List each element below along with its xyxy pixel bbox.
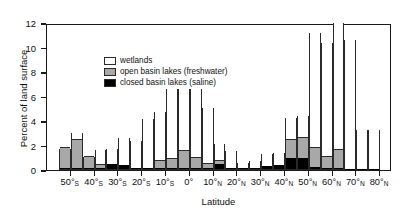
legend-swatch-closed — [104, 79, 116, 87]
bar-segment-wetlands — [155, 111, 165, 161]
bar-segment-closed-basin-lakes — [119, 165, 129, 169]
x-axis-tick-mark — [355, 171, 356, 176]
y-axis-tick-label: 10 — [6, 43, 36, 54]
stacked-bar — [106, 149, 118, 170]
stacked-bar — [142, 119, 154, 170]
bar-segment-wetlands — [226, 150, 236, 168]
bar-segment-wetlands — [119, 137, 129, 165]
bar-segment-open-basin-lakes — [60, 148, 70, 168]
bar-segment-wetlands — [262, 153, 272, 166]
stacked-bar — [333, 23, 345, 170]
bar-segment-wetlands — [345, 39, 355, 169]
bar-segment-wetlands — [96, 149, 106, 165]
legend-swatch-wetlands — [104, 57, 116, 65]
x-axis-tick-mark — [117, 171, 118, 176]
bar-segment-closed-basin-lakes — [60, 168, 70, 169]
bar-segment-wetlands — [131, 140, 141, 168]
stacked-bar — [83, 157, 95, 170]
stacked-bar — [321, 43, 333, 170]
stacked-bar — [214, 144, 226, 170]
bar-segment-open-basin-lakes — [167, 159, 177, 169]
bar-segment-closed-basin-lakes — [143, 168, 153, 169]
stacked-bar — [59, 149, 71, 170]
stacked-bar — [273, 153, 285, 170]
bar-segment-closed-basin-lakes — [96, 168, 106, 169]
x-axis-tick-label: 40°S — [84, 177, 102, 187]
bar-segment-divider — [96, 164, 106, 165]
legend-label: open basin lakes (freshwater) — [120, 67, 227, 77]
bar-segment-closed-basin-lakes — [203, 168, 213, 169]
stacked-bar — [118, 138, 130, 170]
bar-segment-divider — [334, 149, 344, 150]
bar-segment-closed-basin-lakes — [250, 168, 260, 169]
stacked-bar — [130, 141, 142, 170]
x-axis-tick-label: 70°N — [346, 177, 365, 187]
stacked-bar — [368, 130, 380, 170]
x-axis-tick-label: 10°S — [156, 177, 174, 187]
bar-segment-divider — [179, 150, 189, 151]
stacked-bar — [297, 116, 309, 170]
stacked-bar — [71, 133, 83, 170]
x-axis-tick-label: 80°N — [370, 177, 389, 187]
x-axis-tick-mark — [236, 171, 237, 176]
x-axis-label: Latitude — [46, 196, 391, 207]
x-axis-tick-mark — [189, 171, 190, 176]
x-axis-tick-label: 20°S — [132, 177, 150, 187]
bar-segment-divider — [322, 156, 332, 157]
bar-segment-closed-basin-lakes — [322, 168, 332, 169]
bar-segment-open-basin-lakes — [72, 140, 82, 168]
stacked-bar — [237, 163, 249, 170]
x-axis-tick-mark — [332, 171, 333, 176]
bar-segment-closed-basin-lakes — [274, 165, 284, 169]
bar-segment-divider — [298, 137, 308, 138]
bar-segment-wetlands — [310, 32, 320, 148]
legend-label: wetlands — [120, 56, 152, 66]
bar-segment-wetlands — [215, 143, 225, 161]
x-axis-tick-label: 50°S — [61, 177, 79, 187]
bar-segment-closed-basin-lakes — [179, 168, 189, 169]
bar-segment-divider — [203, 163, 213, 164]
stacked-bar — [154, 112, 166, 170]
bar-segment-wetlands — [298, 115, 308, 138]
x-axis-tick-label: 30°S — [108, 177, 126, 187]
bar-segment-closed-basin-lakes — [226, 168, 236, 169]
stacked-bar — [261, 154, 273, 170]
bar-segment-closed-basin-lakes — [131, 168, 141, 169]
bar-segment-open-basin-lakes — [334, 150, 344, 168]
bar-segment-divider — [84, 156, 94, 157]
bar-segment-open-basin-lakes — [298, 138, 308, 158]
bar-segment-closed-basin-lakes — [286, 158, 296, 169]
x-axis-tick-label: 10°N — [203, 177, 222, 187]
bar-segment-closed-basin-lakes — [72, 168, 82, 169]
x-axis-tick-mark — [260, 171, 261, 176]
x-axis-tick-label: 20°N — [227, 177, 246, 187]
x-axis-tick-mark — [94, 171, 95, 176]
bar-segment-closed-basin-lakes — [167, 168, 177, 169]
x-axis-tick-label: 40°N — [275, 177, 294, 187]
bar-segment-open-basin-lakes — [286, 139, 296, 158]
chart-figure: Percent of land surface 024681012 wetlan… — [0, 0, 415, 217]
bar-segment-closed-basin-lakes — [107, 164, 117, 169]
bar-segment-divider — [215, 160, 225, 161]
bar-segment-divider — [286, 139, 296, 140]
x-axis-tick-label: 50°N — [298, 177, 317, 187]
legend-entry: closed basin lakes (saline) — [104, 77, 227, 88]
bar-segment-divider — [191, 157, 201, 158]
bar-segment-open-basin-lakes — [310, 148, 320, 167]
x-axis-tick-label: 0° — [184, 177, 193, 187]
x-axis-tick-mark — [379, 171, 380, 176]
stacked-bar — [309, 33, 321, 170]
stacked-bar — [202, 108, 214, 170]
bar-segment-closed-basin-lakes — [238, 168, 248, 169]
bar-segment-wetlands — [107, 148, 117, 164]
stacked-bar — [356, 130, 368, 170]
bar-segment-wetlands — [334, 22, 344, 150]
legend-entry: wetlands — [104, 55, 227, 66]
y-axis-tick-label: 6 — [6, 92, 36, 103]
bar-segment-open-basin-lakes — [191, 158, 201, 169]
bar-segment-closed-basin-lakes — [155, 168, 165, 169]
bar-segment-divider — [72, 139, 82, 140]
legend-entry: open basin lakes (freshwater) — [104, 66, 227, 77]
x-axis-tick-label: 30°N — [251, 177, 270, 187]
stacked-bar — [344, 40, 356, 170]
